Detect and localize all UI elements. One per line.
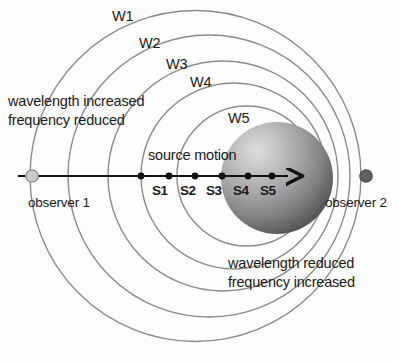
source-dot-s6 bbox=[269, 173, 276, 180]
note-blueshift: wavelength reduced frequency increased bbox=[228, 254, 355, 292]
source-sphere bbox=[221, 122, 333, 234]
source-label-s5: S5 bbox=[260, 183, 276, 198]
source-dot-s3 bbox=[192, 173, 199, 180]
wavefront-label-w3: W3 bbox=[166, 56, 187, 72]
observer-1-label: observer 1 bbox=[28, 195, 90, 210]
note-blueshift-line-1: wavelength reduced bbox=[228, 254, 355, 273]
wavefront-label-w1: W1 bbox=[112, 8, 133, 24]
observer-2-label: observer 2 bbox=[325, 195, 387, 210]
note-blueshift-line-2: frequency increased bbox=[228, 273, 355, 292]
source-dot-s2 bbox=[166, 173, 173, 180]
observer-1-marker bbox=[26, 170, 38, 182]
source-dot-s4 bbox=[219, 173, 226, 180]
note-redshift: wavelength increased frequency reduced bbox=[8, 92, 144, 130]
note-redshift-line-1: wavelength increased bbox=[8, 92, 144, 111]
wavefront-label-w2: W2 bbox=[139, 35, 160, 51]
source-motion-label: source motion bbox=[148, 147, 236, 163]
diagram-svg bbox=[0, 0, 399, 362]
source-label-s2: S2 bbox=[180, 183, 196, 198]
wavefront-label-w4: W4 bbox=[190, 74, 211, 90]
doppler-diagram-canvas: W1 W2 W3 W4 W5 S1 S2 S3 S4 S5 source mot… bbox=[0, 0, 399, 362]
observer-2-marker bbox=[360, 170, 372, 182]
source-label-s4: S4 bbox=[233, 183, 249, 198]
source-dot-s5 bbox=[245, 173, 252, 180]
source-label-s3: S3 bbox=[206, 183, 222, 198]
wavefront-label-w5: W5 bbox=[228, 110, 249, 126]
note-redshift-line-2: frequency reduced bbox=[8, 111, 144, 130]
source-dot-s1 bbox=[138, 173, 145, 180]
source-label-s1: S1 bbox=[152, 183, 168, 198]
